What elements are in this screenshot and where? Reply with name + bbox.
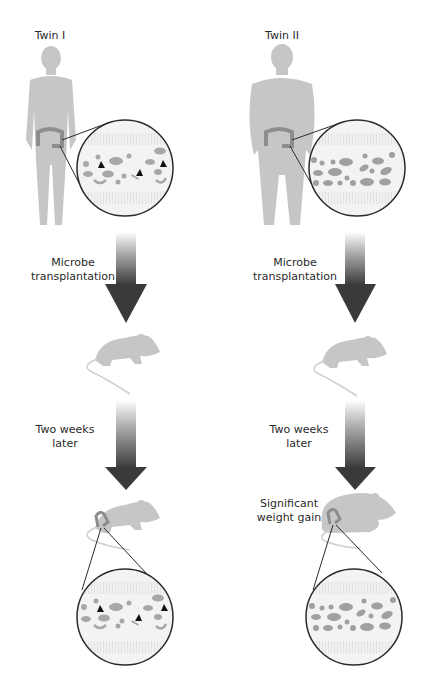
twin-2-outcome-line2: weight gain (253, 511, 325, 525)
twin-1-step2-line1: Two weeks (30, 423, 100, 437)
twin-2-step2-line2: later (264, 437, 334, 451)
twin-2-arrow-transplantation (335, 232, 376, 323)
twin-2-microbiota-circle (307, 118, 407, 218)
twin-1-step1-label: Microbe transplantation (28, 256, 118, 284)
twin-1-lean-human-silhouette (26, 46, 76, 225)
diagram-canvas (0, 0, 427, 692)
twin-1-arrow-two-weeks (105, 400, 147, 490)
twin-1-mouse-before (87, 334, 160, 394)
twin-1-step2-line2: later (30, 437, 100, 451)
twin-2-arrow-two-weeks (335, 400, 376, 490)
twin-2-mouse-before (314, 336, 387, 396)
twin-1-step1-line1: Microbe (28, 256, 118, 270)
twin-2-step1-line2: transplantation (250, 270, 340, 284)
twin-2-step2-line1: Two weeks (264, 423, 334, 437)
twin-2-step2-label: Two weeks later (264, 423, 334, 451)
twin-2-step1-label: Microbe transplantation (250, 256, 340, 284)
twin-2-outcome-line1: Significant (253, 497, 325, 511)
twin-1-mouse-microbiota-circle (75, 567, 175, 667)
twin-1-step2-label: Two weeks later (30, 423, 100, 451)
twin-2-outcome-label: Significant weight gain (253, 497, 325, 525)
twin-1-label: Twin I (30, 29, 70, 43)
twin-1-microbiota-circle (75, 118, 175, 218)
twin-2-step1-line1: Microbe (250, 256, 340, 270)
twin-2-mouse-after-obese (321, 493, 396, 548)
twin-2-label: Twin II (260, 29, 304, 43)
twin-2-mouse-microbiota-circle (304, 567, 404, 667)
twin-2-obese-human-silhouette (249, 44, 314, 225)
twin-1-step1-line2: transplantation (28, 270, 118, 284)
